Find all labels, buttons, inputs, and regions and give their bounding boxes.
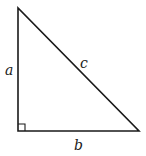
side-label-c: c [80, 56, 88, 70]
triangle-figure [0, 0, 146, 156]
side-label-b: b [74, 138, 83, 152]
right-triangle-diagram: a c b [0, 0, 146, 156]
side-label-a: a [5, 63, 13, 77]
right-angle-marker-icon [18, 124, 25, 131]
triangle-outline [18, 8, 139, 131]
